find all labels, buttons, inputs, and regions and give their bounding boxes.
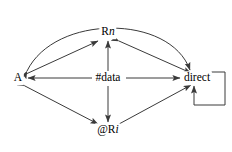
edge-ri-direct [119, 85, 191, 124]
node-data-label: #data [96, 71, 121, 83]
node-rn-label: R [101, 25, 109, 37]
node-ri-label-italic: i [116, 123, 119, 135]
node-direct-label: direct [184, 71, 210, 83]
edge-a-rn [26, 41, 98, 74]
node-a[interactable]: A [12, 71, 24, 85]
node-data[interactable]: #data [94, 71, 123, 85]
node-ri-label: @R [97, 123, 115, 135]
node-a-label: A [14, 71, 22, 83]
node-ri[interactable]: @Ri [95, 123, 120, 137]
edge-rn-direct [119, 41, 191, 73]
node-rn[interactable]: Rn [99, 25, 116, 39]
node-direct[interactable]: direct [182, 71, 212, 85]
graph-diagram: A Rn #data direct @Ri [0, 0, 232, 152]
edge-a-ri [25, 86, 98, 124]
node-rn-label-italic: n [109, 25, 115, 37]
